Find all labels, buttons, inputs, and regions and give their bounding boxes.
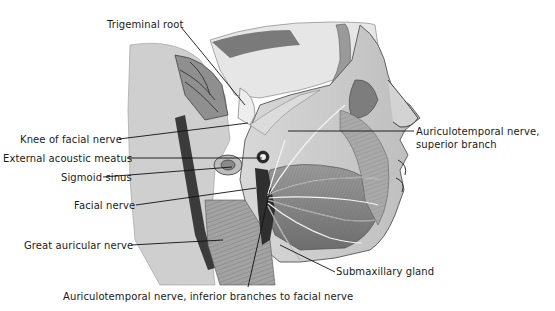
label-sigmoid-sinus: Sigmoid sinus — [61, 172, 132, 184]
label-auriculotemporal-superior-line1: Auriculotemporal nerve, — [416, 126, 539, 138]
label-auriculotemporal-superior-line2: superior branch — [416, 139, 497, 151]
label-submaxillary-gland: Submaxillary gland — [336, 266, 434, 278]
label-external-acoustic-meatus: External acoustic meatus — [3, 153, 132, 165]
label-knee-of-facial-nerve: Knee of facial nerve — [20, 134, 122, 146]
label-auriculotemporal-inferior: Auriculotemporal nerve, inferior branche… — [63, 291, 353, 303]
label-trigeminal-root: Trigeminal root — [107, 19, 184, 31]
label-great-auricular-nerve: Great auricular nerve — [24, 240, 133, 252]
label-facial-nerve: Facial nerve — [74, 200, 135, 212]
anatomy-figure: Trigeminal root Knee of facial nerve Ext… — [0, 0, 555, 311]
